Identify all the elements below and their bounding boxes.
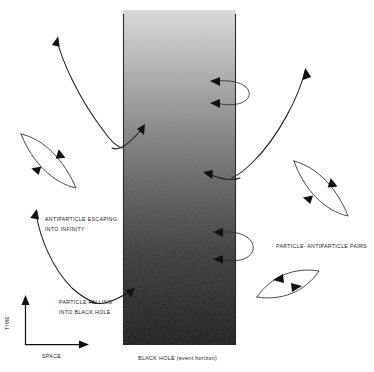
trajectory-escaping-particle-right <box>232 67 311 178</box>
annotation-antiparticle-escaping-line1: ANTIPARTICLE ESCAPING <box>45 216 117 222</box>
arrowhead-icon <box>273 274 284 283</box>
arrowhead-icon <box>52 35 62 47</box>
pair-loop-right-lower <box>257 270 319 298</box>
arrowhead-icon <box>56 149 68 161</box>
annotation-antiparticle-escaping-line2: INTO INFINITY <box>45 226 85 232</box>
hawking-radiation-figure: TIME SPACE ANTIPARTICLE ESCAPING INTO IN… <box>0 0 374 372</box>
space-axis-arrowhead-icon <box>79 341 89 349</box>
pair-loop-left <box>21 134 76 188</box>
arrowhead-icon <box>302 193 313 204</box>
loop-path <box>21 134 76 188</box>
pair-loop-right-upper <box>294 161 348 216</box>
loop-path <box>294 161 348 216</box>
space-axis-label: SPACE <box>42 353 61 359</box>
trajectory-escaping-antiparticle-upper <box>52 35 122 148</box>
annotation-particle-falling-line2: INTO BLACK HOLE <box>59 309 111 315</box>
arrowhead-icon <box>30 208 41 219</box>
trajectory-escaping-antiparticle-lower <box>30 208 96 303</box>
annotation-particle-falling-line1: PARTICLE FALLING <box>59 299 112 305</box>
black-hole-caption: BLACK HOLE (event horizon) <box>138 355 217 361</box>
figure-canvas: TIME SPACE ANTIPARTICLE ESCAPING INTO IN… <box>0 0 374 372</box>
arrowhead-icon <box>291 283 302 292</box>
arrowhead-icon <box>300 67 311 80</box>
trajectory-path <box>57 40 122 148</box>
time-axis-label: TIME <box>4 316 10 330</box>
annotation-particle-antiparticle-pairs: PARTICLE- ANTIPARTICLE PAIRS <box>276 243 367 249</box>
time-axis-arrowhead-icon <box>22 295 30 305</box>
arrowhead-icon <box>328 178 340 190</box>
loop-path <box>257 270 319 298</box>
